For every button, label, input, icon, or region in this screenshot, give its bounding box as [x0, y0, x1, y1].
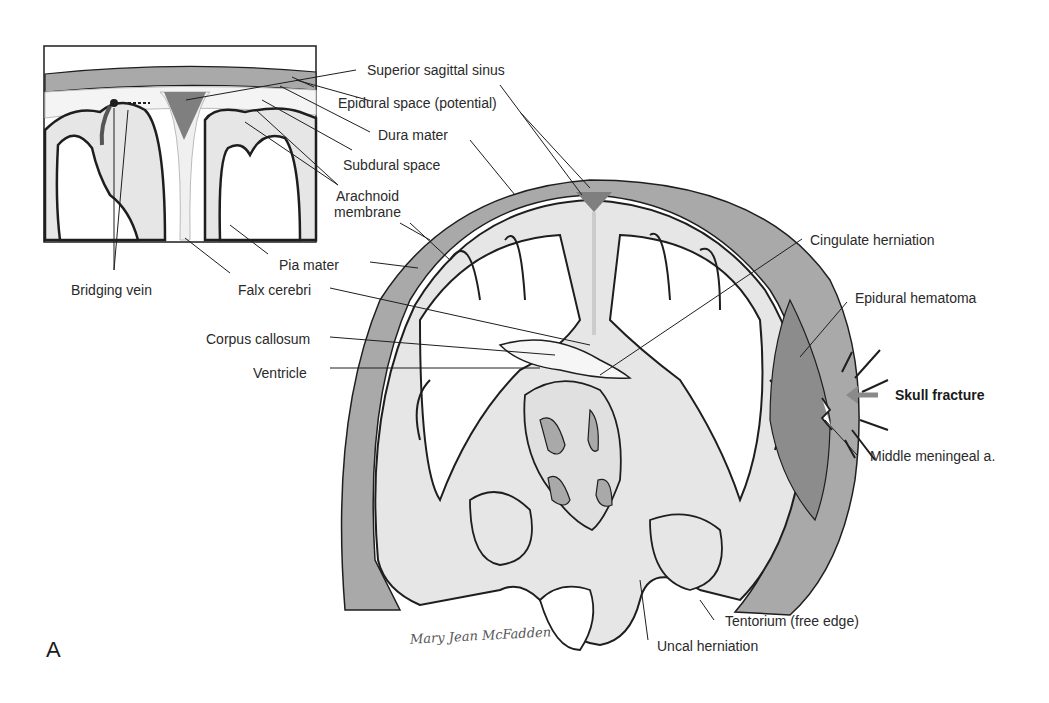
label-epidural-space: Epidural space (potential) [338, 95, 497, 111]
coronal-section [342, 180, 888, 650]
label-cingulate-herniation: Cingulate herniation [810, 232, 935, 248]
label-epidural-hematoma: Epidural hematoma [855, 290, 976, 306]
meninges-inset [44, 46, 316, 242]
label-middle-meningeal-artery: Middle meningeal a. [870, 448, 995, 464]
label-skull-fracture: Skull fracture [895, 387, 984, 403]
brain-diagram [0, 0, 1049, 703]
label-corpus-callosum: Corpus callosum [206, 331, 310, 347]
label-dura-mater: Dura mater [378, 127, 448, 143]
label-falx-cerebri: Falx cerebri [238, 282, 311, 298]
label-subdural-space: Subdural space [343, 157, 440, 173]
label-arachnoid-line1: Arachnoid [336, 188, 399, 204]
label-arachnoid-line2: membrane [334, 204, 401, 220]
label-pia-mater: Pia mater [279, 257, 339, 273]
label-arachnoid-membrane: Arachnoid membrane [334, 188, 401, 220]
label-superior-sagittal-sinus: Superior sagittal sinus [367, 62, 505, 78]
label-ventricle: Ventricle [253, 365, 307, 381]
label-uncal-herniation: Uncal herniation [657, 638, 758, 654]
label-bridging-vein: Bridging vein [71, 282, 152, 298]
panel-letter: A [46, 637, 61, 663]
label-tentorium: Tentorium (free edge) [725, 613, 859, 629]
